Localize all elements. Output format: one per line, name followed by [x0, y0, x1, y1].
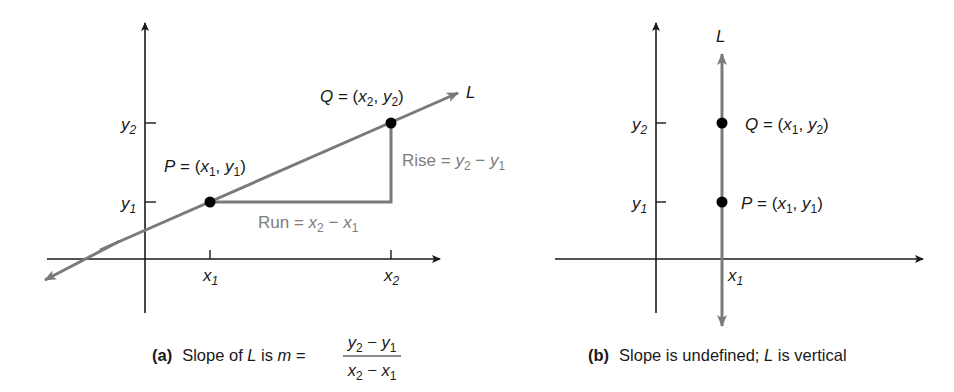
caption-a: (a)Slope of L is m = y2 − y1 x2 − x1: [152, 333, 401, 383]
point-p: [717, 197, 728, 208]
panel-b: L y2 y1 x1 Q = (x1, y2) P = (x1, y1) (b)…: [555, 23, 923, 364]
line-l-label: L: [716, 27, 725, 46]
x-label-x1: x1: [727, 266, 743, 288]
point-q-label: Q = (x1, y2): [745, 115, 829, 137]
caption-b: (b)Slope is undefined; L is vertical: [588, 346, 847, 364]
point-q: [386, 118, 397, 129]
y-label-y1: y1: [120, 194, 136, 216]
point-q: [717, 118, 728, 129]
fraction-denominator: x2 − x1: [347, 361, 397, 383]
slope-figure: L y2 y1 x1 x2 P = (x1, y1) Q = (x2, y2) …: [0, 0, 954, 392]
run-label: Run = x2 − x1: [258, 213, 359, 235]
line-l-tail: [45, 241, 120, 280]
rise-label: Rise = y2 − y1: [402, 151, 505, 173]
y-label-y2: y2: [120, 115, 137, 137]
line-l-label: L: [466, 83, 475, 102]
x-label-x1: x1: [202, 266, 218, 288]
point-q-label: Q = (x2, y2): [320, 87, 404, 109]
point-p-label: P = (x1, y1): [164, 157, 246, 179]
svg-text:(a)Slope of L is m =: (a)Slope of L is m =: [152, 346, 306, 364]
point-p-label: P = (x1, y1): [741, 194, 823, 216]
fraction-numerator: y2 − y1: [347, 333, 397, 355]
y-label-y1: y1: [631, 194, 647, 216]
point-p: [205, 197, 216, 208]
y-label-y2: y2: [631, 115, 648, 137]
panel-a: L y2 y1 x1 x2 P = (x1, y1) Q = (x2, y2) …: [45, 23, 505, 383]
x-label-x2: x2: [383, 266, 400, 288]
